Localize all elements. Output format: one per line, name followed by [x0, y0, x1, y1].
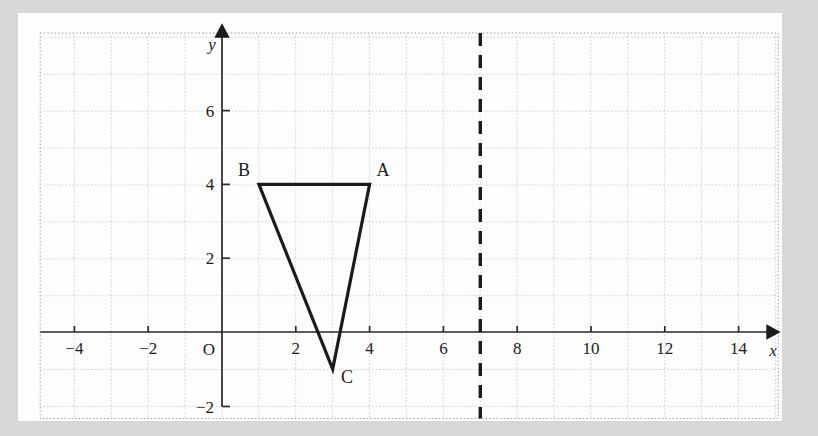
- x-tick-label-14: 14: [730, 340, 747, 357]
- x-axis-name: x: [769, 342, 777, 359]
- vertex-label-A: A: [377, 161, 390, 179]
- vertex-label-C: C: [341, 368, 353, 386]
- grid-lines: [40, 33, 778, 419]
- x-tick-label-neg2: −2: [139, 340, 157, 357]
- x-tick-label-4: 4: [365, 340, 374, 357]
- y-tick-label-6: 6: [206, 102, 215, 119]
- y-tick-label-4: 4: [206, 176, 215, 193]
- x-tick-label-8: 8: [513, 340, 522, 357]
- x-tick-label-10: 10: [583, 340, 600, 357]
- vertex-label-B: B: [238, 161, 250, 179]
- x-tick-label-neg4: −4: [65, 340, 83, 357]
- y-axis-name: y: [208, 36, 216, 53]
- x-tick-label-6: 6: [439, 340, 448, 357]
- y-tick-label-neg2: −2: [196, 398, 214, 415]
- x-tick-label-2: 2: [292, 340, 301, 357]
- x-tick-label-12: 12: [656, 340, 673, 357]
- origin-label: O: [203, 341, 215, 358]
- y-tick-label-2: 2: [206, 250, 215, 267]
- coordinate-plane-figure: [0, 0, 818, 436]
